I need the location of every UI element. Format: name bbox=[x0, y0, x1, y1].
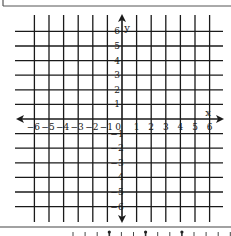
x-tick-label: 2 bbox=[148, 122, 154, 132]
x-tick-label: −3 bbox=[71, 122, 85, 132]
x-axis-label: x bbox=[205, 107, 211, 118]
number-line-point bbox=[144, 230, 147, 233]
number-line-point bbox=[108, 230, 111, 233]
y-tick-label: −4 bbox=[110, 172, 124, 182]
y-tick-label: 5 bbox=[114, 41, 120, 51]
top-border bbox=[3, 0, 231, 6]
y-tick-label: −2 bbox=[110, 143, 123, 153]
y-tick-label: −6 bbox=[110, 202, 124, 212]
x-tick-label: −4 bbox=[56, 122, 70, 132]
x-tick-label: −5 bbox=[41, 122, 55, 132]
x-tick-label: 5 bbox=[192, 122, 198, 132]
coordinate-plane-figure: −6−5−4−3−2−11234560123456−1−2−3−4−5−6xy … bbox=[0, 0, 231, 236]
x-tick-label: −6 bbox=[27, 122, 41, 132]
x-tick-label: 1 bbox=[134, 122, 140, 132]
coordinate-plane: −6−5−4−3−2−11234560123456−1−2−3−4−5−6xy bbox=[0, 0, 231, 236]
y-tick-label: −3 bbox=[110, 158, 124, 168]
y-tick-label: −1 bbox=[110, 129, 123, 139]
x-tick-label: 4 bbox=[178, 122, 184, 132]
x-tick-label: 6 bbox=[207, 122, 213, 132]
y-axis-label: y bbox=[123, 22, 130, 33]
y-tick-label: 1 bbox=[114, 99, 120, 109]
number-line-point bbox=[180, 230, 183, 233]
tick-labels: −6−5−4−3−2−11234560123456−1−2−3−4−5−6xy bbox=[27, 22, 213, 212]
y-tick-label: 3 bbox=[114, 70, 120, 80]
y-tick-label: 4 bbox=[114, 56, 120, 66]
y-tick-label: 6 bbox=[114, 26, 120, 36]
x-tick-label: 3 bbox=[163, 122, 169, 132]
bottom-number-line-fragment bbox=[0, 227, 231, 236]
x-tick-label: −2 bbox=[85, 122, 98, 132]
y-tick-label: −5 bbox=[110, 187, 124, 197]
y-tick-label: 2 bbox=[114, 85, 120, 95]
